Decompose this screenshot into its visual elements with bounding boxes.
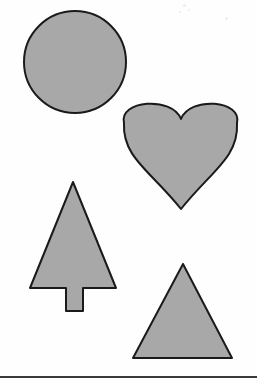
worksheet-canvas [0, 0, 257, 385]
shape-diagram [0, 0, 257, 385]
circle-shape [24, 11, 126, 113]
